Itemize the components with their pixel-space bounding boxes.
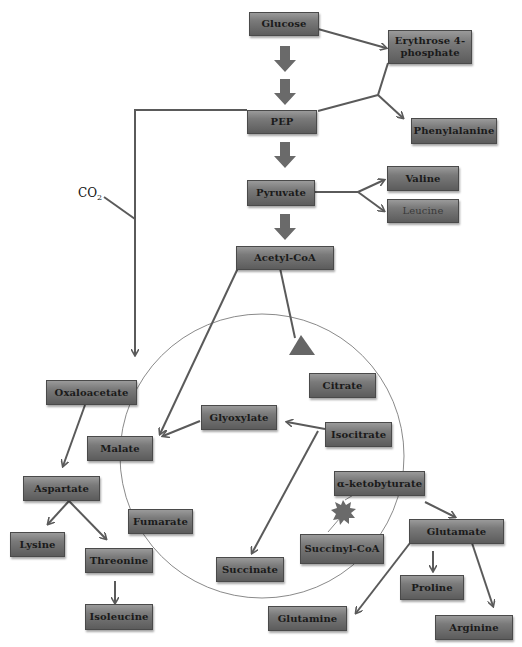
co2-text: CO <box>78 186 97 200</box>
node-malate: Malate <box>87 436 153 461</box>
node-proline: Proline <box>400 575 464 600</box>
block-arrows <box>274 46 296 240</box>
node-fumarate: Fumarate <box>128 509 193 534</box>
node-threonine: Threonine <box>85 548 153 573</box>
node-succinate: Succinate <box>216 557 284 582</box>
co2-label: CO2 <box>78 186 102 202</box>
node-aspartate: Aspartate <box>23 476 100 501</box>
node-glyoxylate: Glyoxylate <box>201 405 277 430</box>
node-lysine: Lysine <box>10 532 65 557</box>
node-alpha-ketobutyrate: α-ketobyturate <box>334 471 425 496</box>
block-arrow-down-icon <box>274 46 296 72</box>
node-pep: PEP <box>247 110 317 134</box>
node-succinyl-coa: Succinyl-CoA <box>300 534 384 564</box>
node-isocitrate: Isocitrate <box>325 422 392 447</box>
block-arrow-down-icon <box>274 142 296 168</box>
pathway-connectors <box>0 0 522 647</box>
node-pyruvate: Pyruvate <box>247 180 315 206</box>
node-glucose: Glucose <box>249 12 319 36</box>
node-glutamine: Glutamine <box>268 606 347 631</box>
triangle-marker-icon <box>289 335 315 355</box>
block-arrow-down-icon <box>274 214 296 240</box>
node-isoleucine: Isoleucine <box>85 604 153 630</box>
node-oxaloacetate: Oxaloacetate <box>46 380 137 405</box>
node-acetyl-coa: Acetyl-CoA <box>236 246 334 270</box>
block-arrow-down-icon <box>274 79 296 105</box>
node-leucine: Leucine <box>387 199 459 223</box>
node-glutamate: Glutamate <box>409 519 504 544</box>
node-phenylalanine: Phenylalanine <box>411 118 497 144</box>
node-arginine: Arginine <box>435 615 513 640</box>
co2-subscript: 2 <box>97 193 102 202</box>
node-citrate: Citrate <box>309 373 376 398</box>
node-erythrose-4-phosphate: Erythrose 4-phosphate <box>388 30 472 64</box>
starburst-icon <box>331 500 356 525</box>
node-valine: Valine <box>387 166 459 191</box>
